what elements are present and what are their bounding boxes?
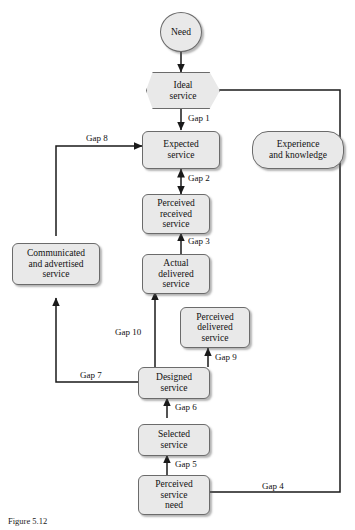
node-communicated-and-advertised-service-label: Communicated and advertised service [13, 248, 99, 280]
node-perceived-service-need[interactable]: Perceived service need [138, 475, 210, 515]
node-communicated-and-advertised-service[interactable]: Communicated and advertised service [12, 243, 100, 285]
node-expected-service-label: Expected service [143, 139, 219, 160]
gap-label-gap9: Gap 9 [215, 352, 237, 362]
gap-label-gap8: Gap 8 [86, 133, 108, 143]
node-ideal-service[interactable]: Ideal service [146, 72, 220, 109]
node-experience-and-knowledge-label: Experience and knowledge [253, 139, 343, 160]
node-need-label: Need [161, 27, 201, 38]
node-designed-service-label: Designed service [139, 372, 209, 393]
gap-label-gap10: Gap 10 [115, 327, 141, 337]
node-actual-delivered-service[interactable]: Actual delivered service [142, 254, 210, 294]
node-perceived-received-service-label: Perceived received service [143, 198, 209, 230]
node-perceived-received-service[interactable]: Perceived received service [142, 194, 210, 234]
node-actual-delivered-service-label: Actual delivered service [143, 258, 209, 290]
connector-gap8 [56, 146, 142, 236]
gap-label-gap4: Gap 4 [262, 481, 284, 491]
node-expected-service[interactable]: Expected service [142, 131, 220, 169]
node-need[interactable]: Need [160, 12, 202, 52]
node-experience-and-knowledge[interactable]: Experience and knowledge [252, 131, 344, 169]
node-perceived-delivered-service-label: Perceived delivered service [181, 312, 249, 344]
gap-label-gap3: Gap 3 [188, 236, 210, 246]
figure-container: Need Ideal service Expected service Expe… [0, 0, 355, 530]
node-selected-service-label: Selected service [139, 429, 209, 450]
gap-label-gap2: Gap 2 [188, 173, 210, 183]
node-ideal-service-label: Ideal service [146, 80, 220, 101]
node-perceived-delivered-service[interactable]: Perceived delivered service [180, 307, 250, 348]
node-perceived-service-need-label: Perceived service need [139, 479, 209, 511]
gap-label-gap7: Gap 7 [80, 370, 102, 380]
figure-caption: Figure 5.12 [8, 516, 47, 526]
gap-label-gap5: Gap 5 [175, 459, 197, 469]
node-selected-service[interactable]: Selected service [138, 424, 210, 456]
gap-label-gap1: Gap 1 [188, 113, 210, 123]
node-designed-service[interactable]: Designed service [138, 367, 210, 399]
gap-label-gap6: Gap 6 [175, 402, 197, 412]
